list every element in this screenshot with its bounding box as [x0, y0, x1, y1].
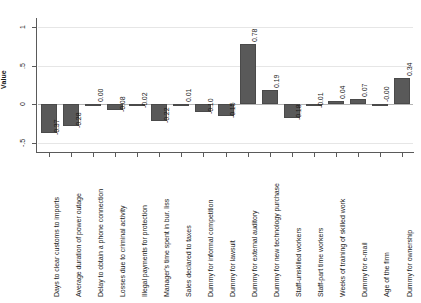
bar: [328, 101, 344, 104]
x-tick-mark: [358, 153, 359, 157]
bar: [240, 44, 256, 104]
bar-value-label: 0.04: [339, 86, 346, 99]
x-category-label: Dummy for e-mail: [361, 243, 368, 297]
bar-chart: Value 1.50-.5 Days to clear customs to i…: [0, 0, 421, 303]
x-category-label: Staff-part time workers: [317, 228, 324, 297]
x-tick-mark: [137, 153, 138, 157]
bar-value-label: -0.28: [75, 112, 82, 127]
x-tick-mark: [248, 153, 249, 157]
x-category-label: Average duration of power outage: [75, 193, 82, 297]
x-tick-mark: [270, 153, 271, 157]
bar: [350, 99, 366, 104]
x-tick-mark: [181, 153, 182, 157]
gridline-.5: [38, 66, 413, 67]
x-tick-mark: [336, 153, 337, 157]
y-tick-label-1: 1: [19, 19, 26, 35]
bar-value-label: -0.02: [141, 92, 148, 107]
y-axis-title: Value: [0, 75, 7, 89]
y-tick-label-0: 0: [19, 96, 26, 112]
x-category-label: Days to clear customs to imports: [53, 197, 60, 297]
x-category-label: Dummy for lawsuit: [229, 240, 236, 297]
y-axis-line: [36, 18, 37, 152]
bar-value-label: -0.18: [295, 105, 302, 120]
y-tick-mark-1: [32, 27, 36, 28]
bar-value-label: 0.34: [406, 63, 413, 76]
bar-value-label: 0.00: [97, 89, 104, 102]
x-category-label: Illegal payments for protection: [141, 205, 148, 297]
x-tick-mark: [292, 153, 293, 157]
y-tick-label--.5: -.5: [19, 135, 26, 151]
x-tick-mark: [49, 153, 50, 157]
bar: [262, 90, 278, 105]
bar-value-label: -0.00: [383, 87, 390, 102]
x-tick-mark: [380, 153, 381, 157]
x-tick-mark: [402, 153, 403, 157]
x-category-label: Dummy for new technology purchase: [273, 183, 280, 297]
x-category-label: Manager's time spent in bur. liss: [163, 199, 170, 297]
x-category-label: Sales declared to taxes: [185, 225, 192, 297]
bar-value-label: 0.01: [185, 88, 192, 101]
bar-value-label: -0.22: [163, 108, 170, 123]
y-tick-mark--.5: [32, 143, 36, 144]
x-category-label: Dummy for informal competition: [207, 200, 214, 297]
x-category-label: Weeks of training of skilled work: [339, 199, 346, 297]
y-tick-mark-.5: [32, 66, 36, 67]
bar: [372, 104, 388, 106]
x-category-label: Age of the firm: [383, 252, 390, 297]
x-category-label: Staff-unskilled workers: [295, 228, 302, 297]
y-tick-label-.5: .5: [19, 58, 26, 74]
x-category-label: Delay to obtain a phone connection: [97, 189, 104, 297]
bar-value-label: -0.37: [53, 119, 60, 134]
bar-value-label: -0.08: [119, 97, 126, 112]
bar-value-label: 0.19: [273, 74, 280, 87]
x-category-label: Losses due to criminal activity: [119, 206, 126, 297]
plot-area: [38, 18, 413, 152]
x-tick-mark: [115, 153, 116, 157]
bar: [173, 104, 189, 106]
bar-value-label: 0.78: [251, 29, 258, 42]
gridline-1: [38, 27, 413, 28]
x-category-label: Dummy for ownership: [406, 230, 413, 297]
bar-value-label: -0.15: [229, 102, 236, 117]
bar-value-label: -0.01: [317, 92, 324, 107]
x-tick-mark: [203, 153, 204, 157]
x-category-label: Dummy for external auditory: [251, 210, 258, 297]
y-tick-mark-0: [32, 104, 36, 105]
x-tick-mark: [71, 153, 72, 157]
x-tick-mark: [226, 153, 227, 157]
bar-value-label: -0.10: [207, 99, 214, 114]
x-tick-mark: [159, 153, 160, 157]
bar: [394, 78, 410, 104]
bar-value-label: 0.07: [361, 84, 368, 97]
x-tick-mark: [314, 153, 315, 157]
x-tick-mark: [93, 153, 94, 157]
gridline--.5: [38, 143, 413, 144]
bar: [85, 104, 101, 106]
